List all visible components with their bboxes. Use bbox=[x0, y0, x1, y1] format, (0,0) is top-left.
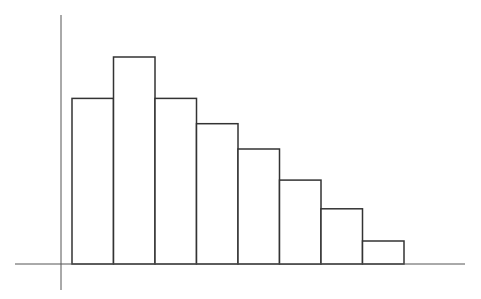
bar-3 bbox=[155, 98, 197, 264]
bar-8 bbox=[363, 241, 405, 264]
bar-chart bbox=[0, 0, 481, 299]
bar-2 bbox=[114, 57, 156, 264]
bar-7 bbox=[321, 209, 363, 264]
bar-1 bbox=[72, 98, 114, 264]
bars-group bbox=[72, 57, 404, 264]
bar-4 bbox=[197, 124, 239, 264]
bar-6 bbox=[280, 180, 322, 264]
bar-5 bbox=[238, 149, 280, 264]
